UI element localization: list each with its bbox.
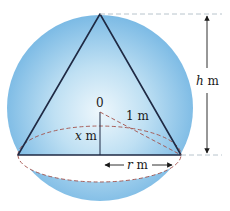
- sphere-radius-label: 1 m: [126, 109, 149, 123]
- r-label: r m: [127, 158, 149, 172]
- center-label: 0: [96, 96, 104, 110]
- cone-in-sphere-diagram: h m r m 0 1 m x m: [0, 0, 230, 211]
- h-label: h m: [196, 74, 220, 88]
- x-label: x m: [75, 129, 98, 143]
